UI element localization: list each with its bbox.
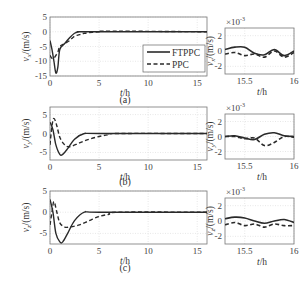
x-axis-label: t/h: [257, 257, 267, 267]
x-tick-label: 16: [290, 246, 300, 256]
y-tick-label: 5: [43, 110, 48, 120]
series-ftppc: [225, 217, 294, 223]
y-axis-label: vz/(m/s): [21, 203, 33, 233]
legend-label-ftppc: FTPPC: [172, 48, 200, 58]
legend-label-ppc: PPC: [172, 60, 189, 70]
x-tick-label: 15.5: [237, 76, 253, 86]
x-axis-label: t/h: [257, 87, 267, 97]
y-tick-label: 0: [43, 129, 48, 139]
x-tick-label: 5: [97, 246, 102, 256]
figure: 50-5-10-15051015vx/(m/s)t/h(a)20-215.516…: [0, 0, 308, 287]
y-tick-label: 0: [218, 132, 223, 142]
x-tick-label: 10: [144, 162, 154, 172]
y-tick-label: 5: [43, 186, 48, 196]
y-tick-label: -5: [40, 42, 48, 52]
y-tick-label: 5: [43, 12, 48, 22]
zoom-plot-0: 20-215.516vx/(m/s)t/h×10-3: [205, 16, 299, 97]
y-tick-label: -2: [215, 231, 223, 241]
x-tick-label: 15: [193, 162, 203, 172]
y-axis-label: vy/(m/s): [21, 118, 33, 148]
y-tick-label: 0: [43, 207, 48, 217]
x-tick-label: 10: [144, 78, 154, 88]
y-scale-exponent: ×10-3: [226, 102, 245, 113]
series-ppc: [50, 118, 207, 146]
y-tick-label: 0: [218, 216, 223, 226]
x-axis-label: t/h: [257, 172, 267, 182]
x-tick-label: 16: [290, 161, 300, 171]
y-tick-label: 2: [218, 201, 223, 211]
x-tick-label: 0: [48, 246, 53, 256]
x-tick-label: 10: [144, 246, 154, 256]
y-tick-label: -15: [35, 71, 47, 81]
zoom-plot-2: 20-215.516vz/(m/s)t/h×10-3: [205, 186, 299, 267]
x-tick-label: 5: [97, 162, 102, 172]
x-tick-label: 15: [193, 78, 203, 88]
y-axis-label: vx/(m/s): [21, 31, 33, 61]
x-tick-label: 0: [48, 162, 53, 172]
series-ftppc: [50, 122, 207, 155]
main-plot-2: 50-5051015vz/(m/s)t/h(c): [21, 186, 207, 274]
y-tick-label: -10: [35, 56, 47, 66]
main-plot-1: 50-5051015vy/(m/s)t/h(b): [21, 107, 207, 188]
panel-caption: (c): [119, 262, 130, 274]
y-scale-exponent: ×10-3: [226, 186, 245, 197]
y-tick-label: 0: [218, 46, 223, 56]
legend: FTPPCPPC: [143, 45, 205, 72]
x-tick-label: 16: [290, 76, 300, 86]
panel-caption: (b): [119, 176, 131, 188]
y-tick-label: -2: [215, 61, 223, 71]
y-tick-label: 0: [43, 27, 48, 37]
axes-frame: [50, 191, 207, 244]
y-tick-label: -5: [40, 228, 48, 238]
y-tick-label: 2: [218, 117, 223, 127]
y-scale-exponent: ×10-3: [226, 16, 245, 27]
x-tick-label: 15.5: [237, 161, 253, 171]
x-tick-label: 5: [97, 78, 102, 88]
y-tick-label: 2: [218, 31, 223, 41]
x-tick-label: 15: [193, 246, 203, 256]
x-tick-label: 0: [48, 78, 53, 88]
zoom-plot-1: 20-215.516vy/(m/s)t/h×10-3: [205, 102, 299, 182]
series-ftppc: [50, 199, 207, 242]
x-tick-label: 15.5: [237, 246, 253, 256]
series-ppc: [50, 202, 207, 228]
y-tick-label: -5: [40, 147, 48, 157]
panel-caption: (a): [119, 94, 130, 106]
